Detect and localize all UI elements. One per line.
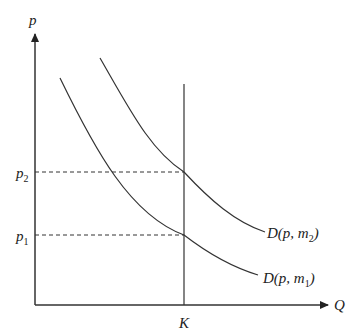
curve-m1-label: D(p, m1) [262, 270, 315, 289]
demand-curve-m2 [100, 58, 265, 232]
y-axis-label: p [28, 12, 37, 28]
curve-m2-label: D(p, m2) [266, 225, 319, 244]
x-axis-label: Q [334, 297, 345, 313]
demand-diagram: p Q K p2 p1 D(p, m2) D(p, m1) [0, 0, 363, 335]
p1-label: p1 [15, 228, 29, 247]
capacity-label: K [178, 315, 190, 331]
demand-curve-m1 [60, 78, 258, 275]
p2-label: p2 [15, 165, 29, 184]
